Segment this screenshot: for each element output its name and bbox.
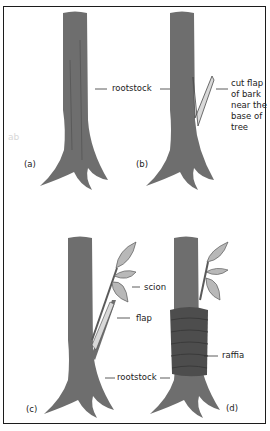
tree-a [40, 12, 108, 191]
panel-label-c: (c) [26, 404, 37, 415]
panel-label-a: (a) [24, 159, 36, 170]
tree-d [150, 237, 228, 419]
label-rootstock-top: rootstock [112, 83, 152, 94]
watermark: ab [8, 132, 19, 142]
tree-c [44, 237, 136, 419]
label-scion: scion [144, 282, 166, 293]
leader-lines [95, 89, 228, 378]
label-flap: flap [136, 313, 152, 324]
grafting-illustration [0, 0, 270, 431]
tree-b [146, 12, 214, 191]
label-raffia: raffia [222, 350, 244, 361]
label-rootstock-bottom: rootstock [117, 372, 157, 383]
panel-label-b: (b) [136, 159, 148, 170]
label-cut-flap: cut flap of bark near the base of tree [231, 78, 269, 133]
panel-label-d: (d) [226, 403, 238, 414]
